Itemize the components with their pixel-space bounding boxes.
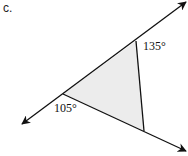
angle-label-135: 135° (143, 39, 166, 53)
shaded-triangle (63, 41, 144, 131)
angle-label-105: 105° (54, 101, 77, 115)
triangle-diagram: 135° 105° (0, 0, 188, 156)
